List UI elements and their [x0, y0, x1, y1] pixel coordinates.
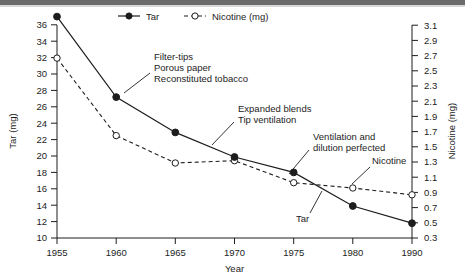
y2-tick-label: 1.3 [424, 156, 437, 167]
data-point-tar [409, 220, 416, 227]
legend-label-tar: Tar [146, 11, 159, 22]
y2-tick-label: 2.7 [424, 50, 437, 61]
annotation-leader-line [124, 73, 150, 93]
annotation-expanded-blends: Expanded blends Tip ventilation [212, 103, 312, 145]
data-point-nicotine [54, 55, 60, 61]
y-axis-left-title: Tar (mg) [7, 113, 18, 148]
y-axis-right: 0.3 0.5 0.7 0.9 1.1 1.3 1.5 1.7 1.9 2.1 … [412, 20, 457, 244]
annotation-nicotine-callout: Nicotine [352, 155, 406, 184]
y-axis-right-tick-labels: 0.3 0.5 0.7 0.9 1.1 1.3 1.5 1.7 1.9 2.1 … [424, 20, 437, 244]
data-point-tar [349, 203, 356, 210]
x-tick-label: 1980 [342, 247, 363, 258]
y2-tick-label: 1.9 [424, 111, 437, 122]
x-axis-ticks [57, 238, 412, 244]
x-tick-label: 1955 [46, 247, 67, 258]
y-tick-label: 32 [36, 52, 47, 63]
y-tick-label: 26 [36, 101, 47, 112]
chart-legend: Tar Nicotine (mg) [118, 11, 269, 22]
y-axis-right-ticks [412, 25, 418, 238]
y-tick-label: 28 [36, 85, 47, 96]
data-point-nicotine [409, 192, 415, 198]
annotation-filter-tips: Filter-tips Porous paper Reconstituted t… [124, 51, 248, 93]
data-point-tar [113, 94, 120, 101]
y2-tick-label: 3.1 [424, 20, 437, 31]
y2-tick-label: 0.7 [424, 202, 437, 213]
y2-tick-label: 1.7 [424, 126, 437, 137]
annotation-line: Nicotine [372, 155, 406, 166]
y2-tick-label: 1.5 [424, 141, 437, 152]
annotation-line: dilution perfected [313, 142, 385, 153]
annotation-leader-line [352, 167, 370, 184]
y2-tick-label: 2.3 [424, 80, 437, 91]
y-tick-label: 10 [36, 232, 47, 243]
x-tick-label: 1990 [401, 247, 422, 258]
data-point-nicotine [291, 180, 297, 186]
y2-tick-label: 0.5 [424, 217, 437, 228]
y2-tick-label: 0.3 [424, 232, 437, 243]
data-point-tar [172, 129, 179, 136]
tar-nicotine-line-chart: Tar Nicotine (mg) [0, 0, 465, 278]
x-axis-tick-labels: 1955 1960 1965 1970 1975 1980 1990 [46, 247, 422, 258]
y2-tick-label: 0.9 [424, 187, 437, 198]
data-point-nicotine [350, 185, 356, 191]
annotation-line: Tip ventilation [238, 114, 296, 125]
x-axis: 1955 1960 1965 1970 1975 1980 1990 Year [46, 238, 422, 274]
annotation-line: Porous paper [154, 62, 211, 73]
x-axis-title: Year [225, 263, 244, 274]
annotation-leader-line [212, 122, 234, 145]
y2-tick-label: 1.1 [424, 172, 437, 183]
y-axis-left-tick-labels: 10 12 14 16 18 20 22 24 26 28 30 32 34 3… [36, 19, 47, 243]
y2-tick-label: 2.5 [424, 65, 437, 76]
x-tick-label: 1965 [165, 247, 186, 258]
data-point-tar [290, 169, 297, 176]
annotation-line: Reconstituted tobacco [154, 73, 248, 84]
y-axis-right-title: Nicotine (mg) [446, 103, 457, 160]
x-tick-label: 1975 [283, 247, 304, 258]
annotation-leader-line [289, 150, 309, 174]
legend-swatch-marker-tar [126, 13, 132, 19]
y-axis-left: 10 12 14 16 18 20 22 24 26 28 30 32 34 3… [7, 19, 57, 243]
chart-figure: Tar Nicotine (mg) [0, 0, 465, 278]
annotation-line: Ventilation and [313, 131, 375, 142]
scan-edge-artifact-light [0, 5, 465, 7]
legend-swatch-marker-nicotine [192, 13, 198, 19]
annotation-tar-callout: Tar [296, 191, 322, 224]
series-tar [54, 13, 416, 226]
data-point-nicotine [113, 132, 119, 138]
data-point-tar [231, 154, 238, 161]
annotation-ventilation-dilution: Ventilation and dilution perfected [289, 131, 385, 174]
annotation-line: Filter-tips [154, 51, 193, 62]
y-tick-label: 16 [36, 183, 47, 194]
y-tick-label: 24 [36, 118, 47, 129]
y-tick-label: 34 [36, 36, 47, 47]
annotation-line: Expanded blends [238, 103, 312, 114]
y-tick-label: 18 [36, 167, 47, 178]
annotation-line: Tar [296, 213, 309, 224]
y-tick-label: 20 [36, 150, 47, 161]
y-tick-label: 30 [36, 68, 47, 79]
y2-tick-label: 2.1 [424, 96, 437, 107]
series-tar-line [57, 17, 412, 224]
x-tick-label: 1970 [224, 247, 245, 258]
y-tick-label: 14 [36, 200, 47, 211]
y-tick-label: 36 [36, 19, 47, 30]
annotation-leader-line [310, 191, 322, 213]
data-point-nicotine [172, 160, 178, 166]
y-tick-label: 22 [36, 134, 47, 145]
data-point-tar [54, 13, 61, 20]
x-tick-label: 1960 [106, 247, 127, 258]
y2-tick-label: 2.9 [424, 35, 437, 46]
y-tick-label: 12 [36, 216, 47, 227]
legend-label-nicotine: Nicotine (mg) [212, 11, 269, 22]
